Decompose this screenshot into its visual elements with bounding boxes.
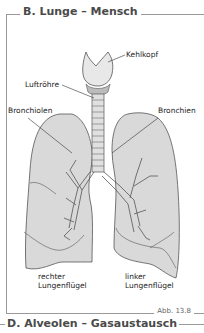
figure-number: Abb. 13.8 <box>154 307 194 316</box>
next-section-title: D. Alveolen – Gasaustausch <box>5 316 179 332</box>
right-lung <box>25 114 92 269</box>
label-bronchioles: Bronchiolen <box>8 106 52 115</box>
next-section-header: D. Alveolen – Gasaustausch <box>0 316 204 332</box>
left-lung <box>112 113 179 278</box>
label-left-lung: linker Lungenflügel <box>125 272 174 290</box>
larynx <box>83 52 113 86</box>
trachea <box>92 94 104 172</box>
label-right-lung: rechter Lungenflügel <box>38 272 87 290</box>
label-larynx: Kehlkopf <box>126 50 158 59</box>
label-bronchi: Bronchien <box>158 106 196 115</box>
label-trachea: Luftröhre <box>25 80 59 89</box>
